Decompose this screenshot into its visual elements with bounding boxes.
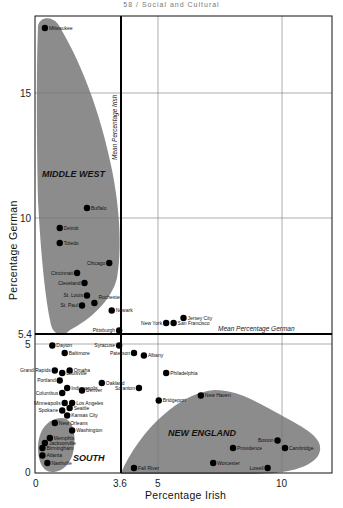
- data-point: [59, 370, 65, 376]
- point-label: Atlanta: [46, 452, 62, 458]
- point-label: Philadelphia: [170, 370, 197, 376]
- y-axis-title: Percentage German: [7, 200, 19, 300]
- region-label-middle-west: MIDDLE WEST: [42, 169, 106, 179]
- point-label: Cincinnati: [51, 270, 73, 276]
- point-label: Bridgeport: [163, 397, 187, 403]
- point-label: Syracuse: [94, 342, 115, 348]
- point-label: Jersey City: [188, 315, 213, 321]
- data-point: [230, 445, 236, 451]
- data-point: [84, 292, 90, 298]
- point-label: Kansas City: [71, 412, 98, 418]
- point-label: Milwaukee: [49, 25, 73, 31]
- point-label: Lowell: [249, 465, 263, 471]
- point-label: Pittsburgh: [93, 327, 116, 333]
- y-tick-5: 5: [25, 339, 31, 350]
- data-point: [52, 420, 58, 426]
- point-label: Fall River: [138, 465, 159, 471]
- data-point: [61, 400, 67, 406]
- point-label: St. Paul: [61, 302, 79, 308]
- point-label: Cambridge: [289, 445, 314, 451]
- data-point: [66, 405, 72, 411]
- x-axis-title: Percentage Irish: [145, 489, 226, 501]
- data-point: [57, 240, 63, 246]
- point-label: Cleveland: [58, 280, 80, 286]
- point-label: Dayton: [56, 342, 72, 348]
- data-point: [84, 205, 90, 211]
- data-point: [106, 260, 112, 266]
- point-label: Denver: [86, 387, 102, 393]
- data-point: [57, 377, 63, 383]
- y-tick-15: 15: [20, 88, 32, 99]
- point-label: Rochester: [98, 294, 121, 300]
- point-label: Buffalo: [91, 205, 107, 211]
- point-label: Grand Rapids: [20, 367, 51, 373]
- x-tick-5: 5: [155, 478, 161, 489]
- data-point: [74, 270, 80, 276]
- scatter-chart: Mean Percentage Irish Mean Percentage Ge…: [0, 0, 343, 508]
- data-point: [131, 465, 137, 471]
- point-label: Birmingham: [46, 445, 73, 451]
- point-label: Nashville: [51, 460, 72, 466]
- point-label: Detroit: [64, 225, 79, 231]
- point-label: Washington: [76, 427, 102, 433]
- data-point: [156, 397, 162, 403]
- data-point: [59, 390, 65, 396]
- point-label: St. Louis: [64, 292, 84, 298]
- data-point: [131, 350, 137, 356]
- data-point: [64, 412, 70, 418]
- data-point: [116, 327, 122, 333]
- data-point: [91, 300, 97, 306]
- data-point: [59, 407, 65, 413]
- point-label: Scranton: [115, 385, 135, 391]
- region-label-new-england: NEW ENGLAND: [168, 428, 236, 438]
- data-point: [49, 342, 55, 348]
- data-point: [81, 280, 87, 286]
- mean-irish-label: Mean Percentage Irish: [111, 94, 119, 160]
- point-label: Seattle: [74, 405, 90, 411]
- data-point: [210, 460, 216, 466]
- data-point: [282, 445, 288, 451]
- point-label: New Haven: [205, 392, 231, 398]
- data-point: [274, 437, 280, 443]
- data-point: [69, 427, 75, 433]
- data-point: [39, 445, 45, 451]
- point-label: Louisville: [66, 370, 87, 376]
- data-point: [64, 385, 70, 391]
- data-point: [109, 307, 115, 313]
- point-label: Paterson: [110, 350, 130, 356]
- point-label: Spokane: [38, 407, 58, 413]
- y-tick-10: 10: [20, 213, 32, 224]
- data-point: [141, 352, 147, 358]
- point-label: Toledo: [64, 240, 79, 246]
- data-point: [180, 315, 186, 321]
- point-label: Portland: [37, 377, 56, 383]
- data-point: [52, 367, 58, 373]
- y-tick-5-4: 5.4: [18, 329, 32, 340]
- data-point: [116, 342, 122, 348]
- data-point: [79, 387, 85, 393]
- point-label: Providence: [237, 445, 262, 451]
- data-point: [61, 350, 67, 356]
- data-point: [264, 465, 270, 471]
- point-label: Boston: [258, 437, 274, 443]
- x-tick-0: 0: [33, 478, 39, 489]
- point-label: Albany: [148, 352, 164, 358]
- data-point: [163, 370, 169, 376]
- data-point: [42, 25, 48, 31]
- x-tick-10: 10: [276, 478, 288, 489]
- point-label: New York: [141, 320, 163, 326]
- mean-german-label: Mean Percentage German: [218, 325, 295, 333]
- data-point: [79, 302, 85, 308]
- data-point: [99, 380, 105, 386]
- data-point: [39, 452, 45, 458]
- point-label: New Orleans: [59, 420, 88, 426]
- point-label: Chicago: [87, 260, 106, 266]
- x-tick-3-6: 3.6: [113, 478, 127, 489]
- data-point: [163, 320, 169, 326]
- point-label: Newark: [116, 307, 133, 313]
- point-label: Worcester: [217, 460, 240, 466]
- point-label: Columbus: [36, 390, 59, 396]
- point-label: Baltimore: [69, 350, 90, 356]
- region-label-south: SOUTH: [73, 453, 105, 463]
- data-point: [44, 460, 50, 466]
